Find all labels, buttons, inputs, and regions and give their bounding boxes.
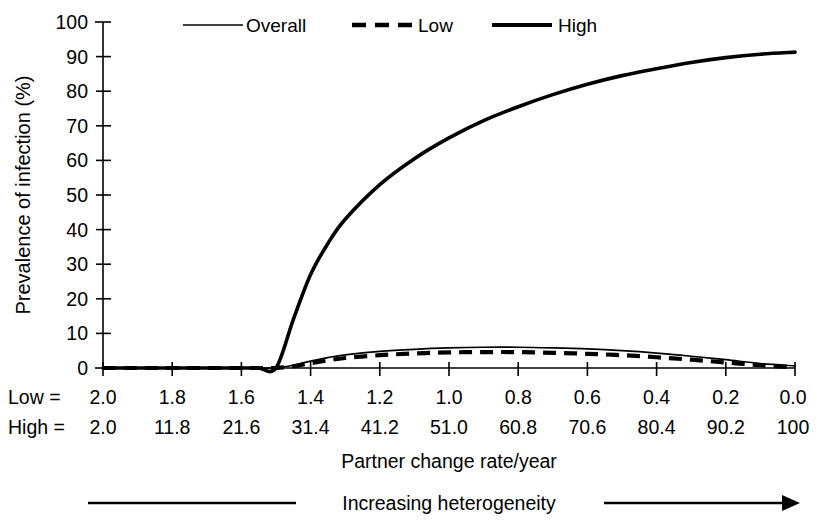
chart-figure: Overall Low High — [0, 0, 817, 524]
prevalence-line-chart: Overall Low High — [0, 0, 817, 524]
x-axis: Low = 2.0 1.8 1.6 1.4 1.2 1.0 0.8 0.6 0.… — [8, 362, 809, 472]
x-axis-row-low: Low = 2.0 1.8 1.6 1.4 1.2 1.0 0.8 0.6 0.… — [8, 386, 807, 408]
y-tick-label-50: 50 — [66, 184, 88, 206]
x-tick-label-high-8: 80.4 — [638, 416, 676, 438]
y-tick-label-80: 80 — [66, 80, 88, 102]
chart-series-group — [103, 52, 795, 371]
heterogeneity-annotation: Increasing heterogeneity — [88, 492, 800, 514]
x-tick-label-low-5: 1.0 — [435, 386, 462, 408]
y-tick-label-0: 0 — [77, 357, 88, 379]
y-tick-label-40: 40 — [66, 219, 88, 241]
x-axis-row-low-key: Low = — [8, 386, 61, 408]
legend-item-high: High — [492, 15, 597, 36]
y-tick-label-20: 20 — [66, 288, 88, 310]
x-tick-label-low-10: 0.0 — [779, 386, 806, 408]
legend-label-high: High — [558, 15, 597, 36]
x-tick-label-high-6: 60.8 — [499, 416, 537, 438]
y-tick-label-90: 90 — [66, 46, 88, 68]
x-tick-label-low-6: 0.8 — [505, 386, 532, 408]
x-axis-title: Partner change rate/year — [341, 450, 557, 472]
x-tick-label-low-3: 1.4 — [297, 386, 324, 408]
y-axis-tick-labels: 100 90 80 70 60 50 40 30 20 10 0 — [55, 11, 88, 379]
y-tick-label-10: 10 — [66, 322, 88, 344]
y-axis: 100 90 80 70 60 50 40 30 20 10 0 Prevale… — [12, 11, 111, 379]
legend-item-low: Low — [352, 15, 453, 36]
x-tick-label-high-9: 90.2 — [707, 416, 745, 438]
annotation-label: Increasing heterogeneity — [342, 492, 556, 514]
x-tick-label-high-1: 11.8 — [154, 416, 191, 438]
x-tick-label-high-10: 100 — [777, 416, 810, 438]
x-axis-row-high: High = 2.0 11.8 21.6 31.4 41.2 51.0 60.8… — [8, 416, 809, 438]
y-tick-label-30: 30 — [66, 253, 88, 275]
x-tick-label-low-7: 0.6 — [574, 386, 601, 408]
legend-label-low: Low — [418, 15, 453, 36]
legend-item-overall: Overall — [183, 15, 306, 36]
x-tick-label-high-2: 21.6 — [222, 416, 260, 438]
x-tick-label-high-0: 2.0 — [89, 416, 116, 438]
series-line-high — [103, 52, 795, 371]
x-tick-label-low-0: 2.0 — [89, 386, 116, 408]
y-axis-title: Prevalence of infection (%) — [12, 75, 34, 314]
x-tick-label-low-1: 1.8 — [159, 386, 186, 408]
x-axis-row-high-key: High = — [8, 416, 65, 438]
arrow-right-icon — [782, 495, 800, 511]
x-tick-label-low-9: 0.2 — [712, 386, 739, 408]
x-tick-label-high-7: 70.6 — [568, 416, 606, 438]
chart-legend: Overall Low High — [183, 15, 597, 36]
legend-label-overall: Overall — [246, 15, 306, 36]
y-tick-label-70: 70 — [66, 115, 88, 137]
x-tick-label-high-5: 51.0 — [430, 416, 468, 438]
x-tick-label-high-3: 31.4 — [292, 416, 330, 438]
x-tick-label-low-8: 0.4 — [643, 386, 670, 408]
y-tick-label-60: 60 — [66, 149, 88, 171]
x-tick-label-high-4: 41.2 — [361, 416, 399, 438]
y-tick-label-100: 100 — [55, 11, 88, 33]
x-tick-label-low-4: 1.2 — [366, 386, 393, 408]
x-tick-label-low-2: 1.6 — [228, 386, 255, 408]
